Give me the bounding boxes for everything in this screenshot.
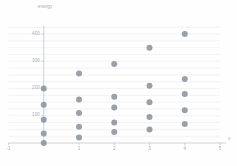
data-point bbox=[147, 99, 153, 105]
x-axis-title: x bbox=[228, 137, 230, 142]
chart-canvas bbox=[0, 0, 237, 166]
data-point bbox=[111, 61, 117, 67]
data-point bbox=[76, 135, 82, 141]
data-point bbox=[147, 114, 153, 120]
y-tick-label: 400 bbox=[20, 32, 40, 37]
data-point bbox=[41, 130, 47, 136]
data-point bbox=[76, 96, 82, 102]
data-point bbox=[76, 124, 82, 130]
y-tick-label: 100 bbox=[20, 113, 40, 118]
data-point bbox=[111, 120, 117, 126]
x-tick-label: 3 bbox=[140, 147, 160, 152]
data-point bbox=[41, 117, 47, 123]
data-point bbox=[182, 91, 188, 97]
data-point bbox=[76, 71, 82, 77]
data-point bbox=[147, 126, 153, 132]
data-point bbox=[182, 76, 188, 82]
data-point bbox=[182, 107, 188, 113]
data-point bbox=[182, 121, 188, 127]
x-tick-label: -1 bbox=[0, 147, 19, 152]
data-point bbox=[76, 110, 82, 116]
x-tick-label: 1 bbox=[69, 147, 89, 152]
x-tick-label: 2 bbox=[104, 147, 124, 152]
data-point bbox=[182, 31, 188, 37]
x-tick-label: 5 bbox=[210, 147, 230, 152]
data-point bbox=[111, 129, 117, 135]
x-tick-label: 4 bbox=[175, 147, 195, 152]
data-point bbox=[147, 83, 153, 89]
axes bbox=[9, 26, 227, 146]
data-point bbox=[111, 105, 117, 111]
data-point bbox=[41, 140, 47, 146]
y-axis-title: energy bbox=[38, 5, 53, 10]
data-point bbox=[147, 45, 153, 51]
y-tick-label: 300 bbox=[20, 59, 40, 64]
plot-area: 100200300400 -112345 energy x bbox=[0, 0, 237, 166]
data-point bbox=[41, 102, 47, 108]
scatter-chart: 100200300400 -112345 energy x bbox=[0, 0, 237, 166]
y-tick-label: 200 bbox=[20, 86, 40, 91]
data-point bbox=[41, 86, 47, 92]
data-point bbox=[111, 94, 117, 100]
